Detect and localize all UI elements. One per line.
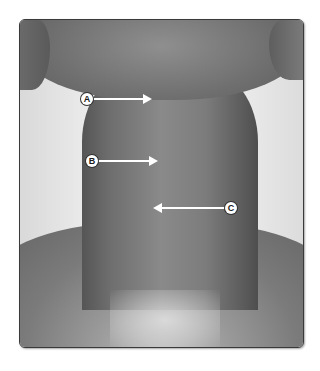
label-c: C [225,202,237,214]
photo-frame [19,19,304,348]
badge-c: C [225,202,237,214]
arrow-a [93,98,150,100]
label-a: A [81,93,93,105]
label-b: B [86,155,98,167]
badge-b: B [86,155,98,167]
arrow-c [155,207,225,209]
arrow-b [98,160,156,162]
badge-a: A [81,93,93,105]
chest-highlight [110,290,220,348]
neck [82,70,258,310]
